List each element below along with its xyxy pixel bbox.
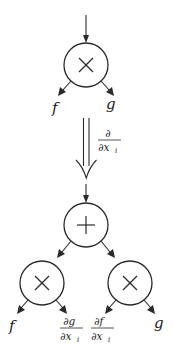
after-tree: f ∂g ∂x i ∂f ∂x i g <box>8 184 164 344</box>
derivative-operator-label: ∂ ∂x i <box>98 127 121 155</box>
leaf-dg-dxi: ∂g ∂x i <box>60 315 83 344</box>
derivative-numerator: ∂ <box>105 127 111 139</box>
leaf-g-top: g <box>106 95 116 113</box>
edge-to-f-top <box>58 81 71 96</box>
fraction-subscript: i <box>108 336 110 344</box>
edge-to-right-product <box>101 241 115 258</box>
fraction-denominator: ∂x <box>91 330 102 342</box>
input-arrow-top <box>83 15 89 43</box>
edge-right-to-g <box>144 300 155 314</box>
derivative-denominator: ∂x <box>98 141 109 153</box>
edge-to-g-top <box>101 81 114 96</box>
edge-left-to-f <box>17 300 28 314</box>
add-node <box>64 203 108 247</box>
multiply-node-top <box>64 43 108 87</box>
fraction-subscript: i <box>77 336 79 344</box>
edge-right-to-df <box>105 300 116 314</box>
expression-tree-diagram: f g ∂ ∂x i <box>0 0 173 363</box>
leaf-df-dxi: ∂f ∂x i <box>91 315 114 344</box>
edge-to-left-product <box>57 241 71 258</box>
leaf-g-bottom: g <box>154 314 164 332</box>
double-arrow-down-icon <box>76 118 97 178</box>
derivative-transform: ∂ ∂x i <box>76 118 121 178</box>
fraction-numerator: ∂f <box>94 315 105 327</box>
leaf-f-bottom: f <box>8 317 17 335</box>
fraction-numerator: ∂g <box>63 315 75 327</box>
edge-left-to-dg <box>56 300 67 314</box>
leaf-f-top: f <box>51 99 60 117</box>
multiply-node-left <box>20 261 64 305</box>
input-arrow-bottom <box>83 184 89 203</box>
multiply-node-right <box>108 261 152 305</box>
fraction-denominator: ∂x <box>60 330 71 342</box>
before-tree: f g <box>51 15 116 117</box>
derivative-denominator-subscript: i <box>115 147 117 155</box>
